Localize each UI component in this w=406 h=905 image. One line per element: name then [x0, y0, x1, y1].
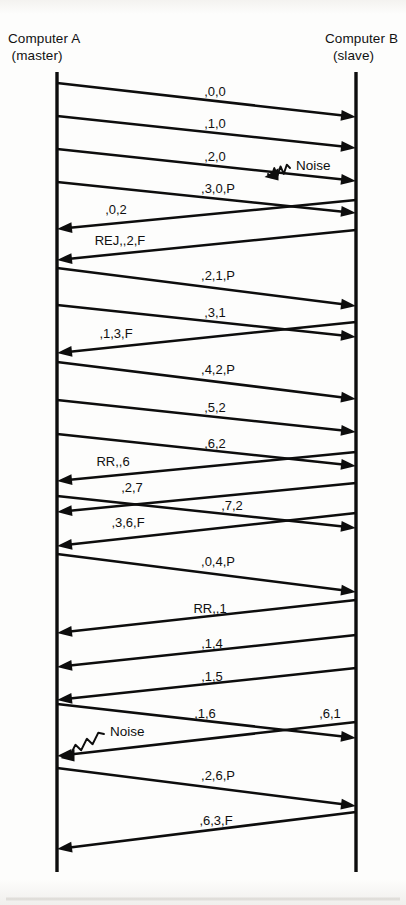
- message-label: ,4,2,P: [201, 362, 235, 377]
- message-4: ,0,2: [57, 200, 356, 233]
- message-arrowhead: [57, 842, 73, 853]
- messages-group: ,0,0,1,0,2,0,3,0,P,0,2REJ,,2,F,2,1,P,3,1…: [57, 83, 356, 853]
- message-arrowhead: [57, 693, 72, 704]
- message-shaft: [57, 116, 343, 147]
- message-14: ,7,2: [57, 496, 356, 532]
- message-shaft: [57, 83, 343, 116]
- message-13: ,2,7: [57, 480, 356, 516]
- message-label: ,0,0: [204, 84, 226, 99]
- message-label: ,7,2: [221, 498, 243, 513]
- message-label: ,2,1,P: [201, 268, 235, 283]
- sequence-diagram-canvas: ,0,0,1,0,2,0,3,0,P,0,2REJ,,2,F,2,1,P,3,1…: [0, 0, 406, 905]
- noise-label: Noise: [296, 158, 331, 173]
- message-shaft: [70, 483, 356, 511]
- message-label: ,3,6,F: [111, 515, 144, 530]
- message-arrowhead: [340, 731, 356, 742]
- message-6: ,2,1,P: [57, 268, 356, 309]
- message-arrowhead: [341, 459, 356, 470]
- message-shaft: [57, 496, 343, 527]
- message-arrowhead: [341, 521, 356, 532]
- message-18: ,1,4: [57, 635, 356, 671]
- lost-frame-arrowhead: [265, 168, 279, 180]
- diagram-page: Computer A (master) Computer B (slave) ,…: [0, 0, 406, 905]
- message-label: ,3,0,P: [201, 181, 235, 196]
- message-label: ,6,1: [319, 706, 341, 721]
- message-8: ,1,3,F: [57, 322, 356, 357]
- message-label: ,1,0: [204, 116, 226, 131]
- message-label: REJ,,2,F: [95, 233, 146, 248]
- message-arrowhead: [340, 299, 356, 310]
- message-22: ,2,6,P: [57, 768, 356, 809]
- message-17: RR,,1: [57, 600, 356, 637]
- message-label: ,0,4,P: [201, 554, 235, 569]
- message-arrowhead: [341, 425, 356, 436]
- message-arrowhead: [340, 585, 356, 596]
- message-label: RR,,1: [193, 601, 226, 616]
- message-arrowhead: [57, 222, 72, 233]
- message-23: ,6,3,F: [57, 812, 356, 853]
- message-arrowhead: [57, 474, 72, 485]
- message-arrowhead: [340, 110, 356, 121]
- message-label: ,1,4: [201, 636, 223, 651]
- message-label: ,6,2: [204, 436, 226, 451]
- message-arrowhead: [341, 174, 356, 185]
- message-label: ,0,2: [105, 202, 127, 217]
- noise-label: Noise: [110, 724, 145, 739]
- message-16: ,0,4,P: [57, 554, 356, 595]
- message-arrowhead: [57, 539, 73, 550]
- message-shaft: [57, 400, 343, 431]
- message-label: ,6,3,F: [199, 813, 232, 828]
- message-arrowhead: [341, 206, 356, 217]
- message-5: REJ,,2,F: [57, 230, 356, 264]
- message-arrowhead: [341, 141, 356, 152]
- message-label: ,3,1: [204, 305, 226, 320]
- message-12: RR,,6: [57, 452, 356, 485]
- message-arrowhead: [57, 346, 72, 357]
- message-15: ,3,6,F: [57, 513, 356, 550]
- message-9: ,4,2,P: [57, 362, 356, 403]
- message-arrowhead: [341, 330, 356, 341]
- message-arrowhead: [57, 253, 72, 264]
- message-1: ,1,0: [57, 116, 356, 152]
- message-label: ,2,7: [121, 480, 143, 495]
- message-label: ,1,5: [201, 669, 223, 684]
- message-label: RR,,6: [96, 454, 129, 469]
- message-arrowhead: [57, 505, 72, 516]
- message-19: ,1,5: [57, 668, 356, 704]
- message-arrowhead: [57, 626, 73, 637]
- message-label: ,1,6: [194, 706, 216, 721]
- message-20: ,1,6: [57, 704, 356, 742]
- message-10: ,5,2: [57, 400, 356, 436]
- noise-annotation-1: Noise: [61, 724, 145, 762]
- message-label: ,1,3,F: [99, 326, 132, 341]
- message-arrowhead: [340, 392, 356, 403]
- message-3: ,3,0,P: [57, 181, 356, 217]
- message-arrowhead: [340, 799, 356, 810]
- message-label: ,2,0: [204, 149, 226, 164]
- message-arrowhead: [57, 660, 72, 671]
- message-label: ,2,6,P: [201, 768, 235, 783]
- message-label: ,5,2: [204, 400, 226, 415]
